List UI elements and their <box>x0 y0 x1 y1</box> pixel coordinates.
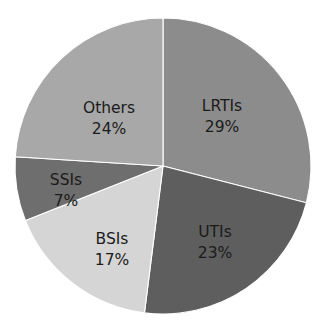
pie-label-name-bsis: BSIs <box>96 230 129 248</box>
pie-label-value-others: 24% <box>92 120 126 138</box>
pie-label-value-utis: 23% <box>198 244 232 262</box>
pie-label-name-others: Others <box>83 99 135 117</box>
pie-slice-others <box>15 18 163 166</box>
pie-label-value-bsis: 17% <box>95 251 129 269</box>
pie-label-value-lrtis: 29% <box>205 118 239 136</box>
pie-chart: LRTIs29%UTIs23%BSIs17%SSIs7%Others24% <box>0 0 328 325</box>
pie-slices <box>15 18 311 314</box>
pie-label-name-ssis: SSIs <box>50 171 82 189</box>
pie-label-name-lrtis: LRTIs <box>202 97 242 115</box>
pie-label-name-utis: UTIs <box>198 223 231 241</box>
pie-label-value-ssis: 7% <box>54 192 79 210</box>
pie-chart-svg: LRTIs29%UTIs23%BSIs17%SSIs7%Others24% <box>0 0 328 325</box>
